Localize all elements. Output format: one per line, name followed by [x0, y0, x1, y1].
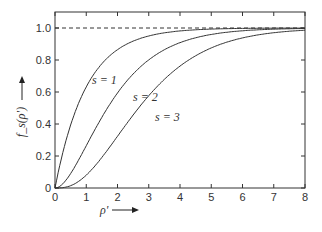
x-tick-label: 0 — [52, 191, 58, 203]
y-tick-label: 0.4 — [36, 118, 51, 130]
x-tick-label: 8 — [302, 191, 308, 203]
x-tick-label: 3 — [146, 191, 152, 203]
x-tick-label: 5 — [208, 191, 214, 203]
y-tick-label: 0.6 — [36, 86, 51, 98]
x-tick-label: 7 — [271, 191, 277, 203]
x-axis-label: ρ' — [99, 203, 109, 217]
x-tick-label: 1 — [83, 191, 89, 203]
y-tick-label: 0.2 — [36, 150, 51, 162]
chart: 01234567800.20.40.60.81.0 s = 1 s = 2 s … — [0, 0, 322, 232]
x-arrow-icon — [112, 207, 139, 213]
curve-s1 — [55, 28, 305, 188]
y-tick-label: 0 — [45, 182, 51, 194]
x-tick-label: 6 — [239, 191, 245, 203]
label-s1: s = 1 — [92, 73, 117, 87]
y-tick-label: 0.8 — [36, 54, 51, 66]
x-tick-label: 2 — [114, 191, 120, 203]
plot-frame — [55, 12, 305, 188]
y-arrow-icon — [19, 76, 25, 100]
label-s3: s = 3 — [155, 110, 180, 124]
curve-s2 — [55, 29, 305, 189]
x-tick-label: 4 — [177, 191, 183, 203]
label-s2: s = 2 — [133, 90, 158, 104]
y-axis-label: f_s(ρ') — [14, 107, 28, 137]
y-tick-label: 1.0 — [36, 22, 51, 34]
curve-s3 — [55, 30, 305, 188]
